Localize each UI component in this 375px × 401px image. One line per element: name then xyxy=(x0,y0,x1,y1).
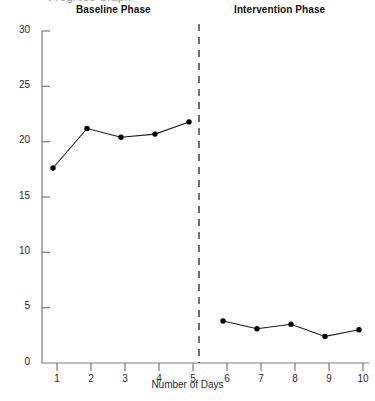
x-axis-title: Number of Days xyxy=(0,379,375,390)
y-tick-label-0: 0 xyxy=(8,356,30,367)
x-axis-ticks xyxy=(57,363,363,371)
baseline-series-markers xyxy=(50,119,191,170)
line-chart: Progress Graph Baseline Phase Interventi… xyxy=(0,0,375,401)
y-tick-label-5: 5 xyxy=(8,300,30,311)
y-axis-ticks xyxy=(42,31,50,308)
chart-canvas xyxy=(0,0,375,401)
y-tick-label-15: 15 xyxy=(8,190,30,201)
baseline-series-line xyxy=(53,122,189,168)
intervention-series-markers xyxy=(220,318,361,339)
y-tick-label-10: 10 xyxy=(8,245,30,256)
y-tick-label-30: 30 xyxy=(8,24,30,35)
y-tick-label-25: 25 xyxy=(8,79,30,90)
y-tick-label-20: 20 xyxy=(8,134,30,145)
